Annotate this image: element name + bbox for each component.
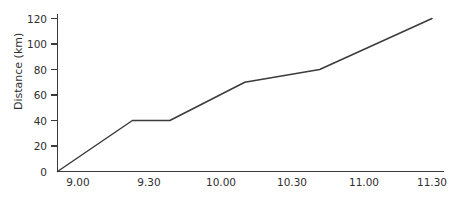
chart-canvas: Distance (km) 120 100 80 60 40 20 0 9.00…: [0, 0, 456, 198]
distance-series-line: [58, 19, 433, 172]
y-tick-label-120: 120: [27, 13, 47, 25]
x-tick-label-9-00: 9.00: [66, 176, 89, 188]
y-axis-label: Distance (km): [12, 33, 25, 110]
x-tick-label-10-00: 10.00: [206, 176, 236, 188]
x-tick-label-9-30: 9.30: [137, 176, 160, 188]
y-tick-label-60: 60: [34, 89, 47, 101]
y-tick-label-0: 0: [40, 166, 47, 178]
x-tick-label-11-30: 11.30: [417, 176, 447, 188]
y-tick-label-80: 80: [34, 64, 47, 76]
x-tick-label-11-00: 11.00: [349, 176, 379, 188]
y-tick-label-100: 100: [27, 38, 47, 50]
distance-time-chart: Distance (km) 120 100 80 60 40 20 0 9.00…: [0, 0, 456, 198]
x-tick-label-10-30: 10.30: [277, 176, 307, 188]
y-tick-label-20: 20: [34, 140, 47, 152]
y-tick-label-40: 40: [34, 115, 47, 127]
